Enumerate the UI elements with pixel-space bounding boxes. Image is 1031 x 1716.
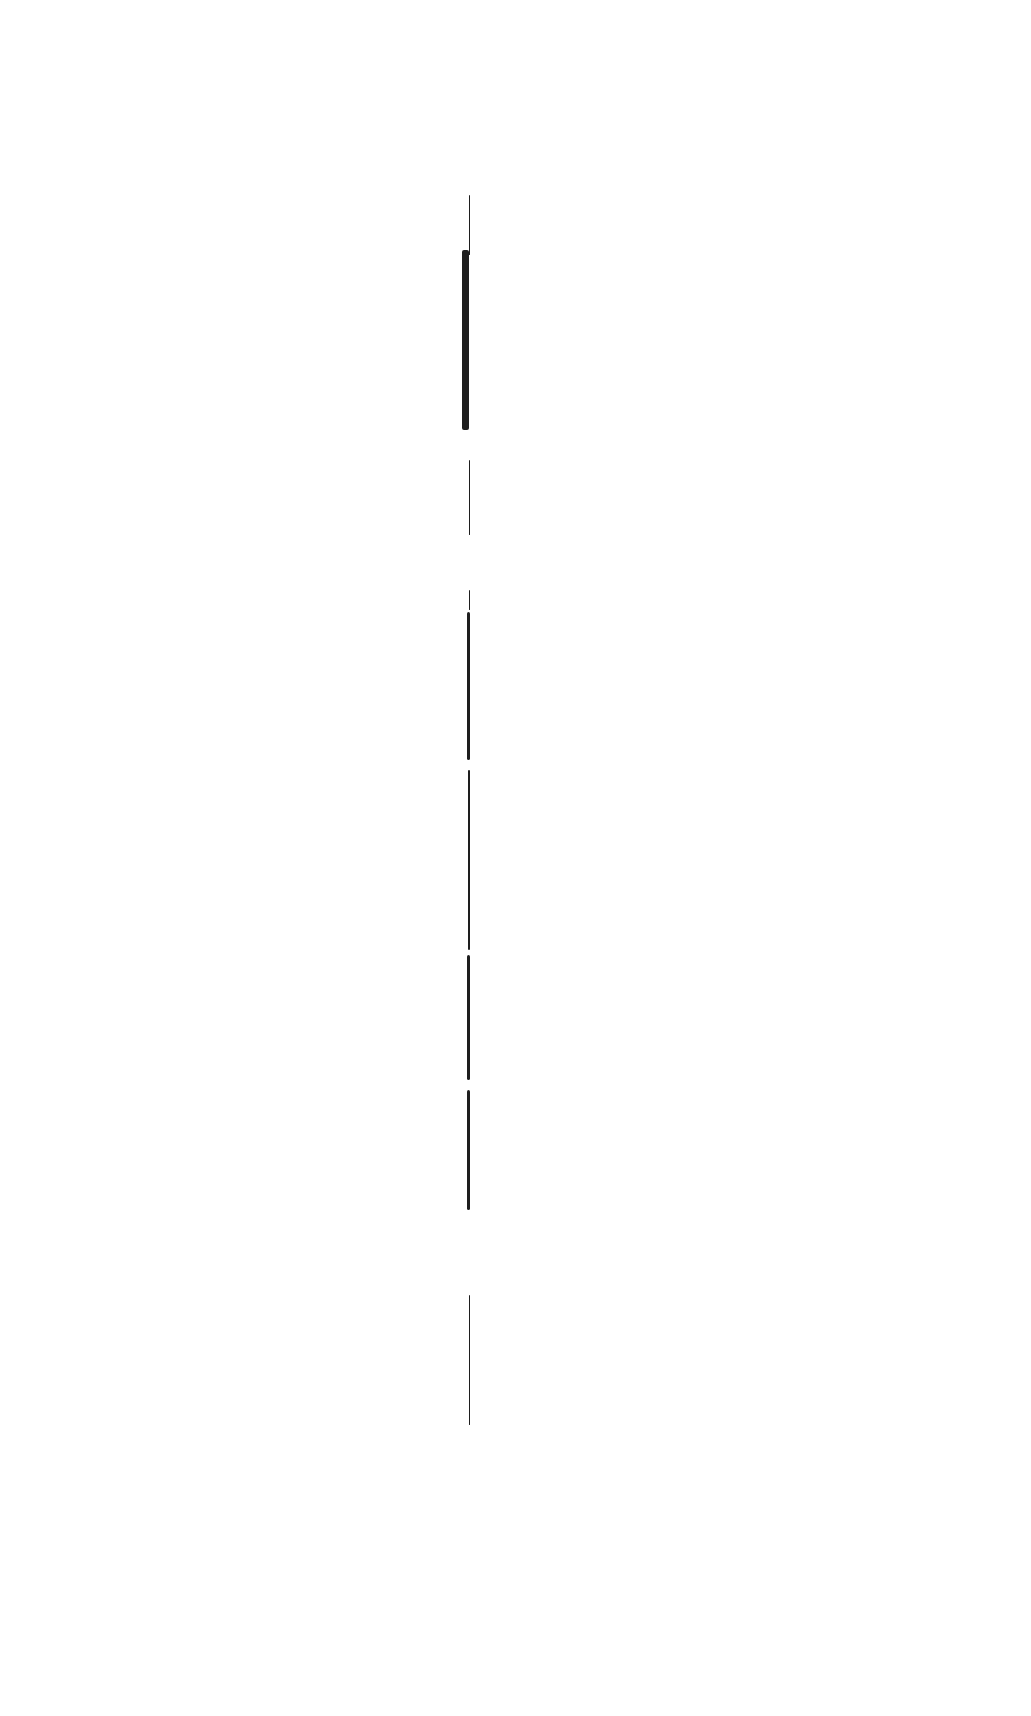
gutter-line-segment (469, 590, 470, 610)
gutter-line-segment (469, 195, 470, 255)
gutter-line-segment (468, 770, 470, 950)
gutter-line-segment (462, 250, 469, 430)
gutter-line-segment (467, 955, 470, 1080)
gutter-line-segment (469, 1295, 470, 1425)
gutter-line-segment (469, 460, 470, 535)
gutter-line-segment (467, 1090, 470, 1210)
blank-scanned-page (0, 0, 1031, 1716)
gutter-line-segment (467, 612, 470, 760)
